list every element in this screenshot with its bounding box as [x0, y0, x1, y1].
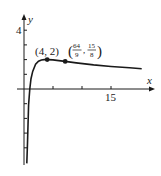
y-axis-label: y — [27, 13, 33, 25]
inflection-point-label: ( 64 9 , 15 8 ) — [68, 42, 102, 60]
maximum-point — [45, 57, 50, 62]
inflection-x-numerator: 64 — [73, 42, 81, 50]
y-tick-label-4: 4 — [16, 24, 22, 36]
maximum-point-label: (4, 2) — [35, 45, 59, 58]
x-axis-label: x — [146, 74, 152, 86]
axes — [17, 14, 155, 165]
function-graph: y x 4 15 (4, 2) ( 64 9 , 15 8 ) — [0, 0, 161, 176]
inflection-point — [63, 59, 68, 64]
inflection-y-denominator: 8 — [90, 51, 94, 59]
svg-text:,: , — [83, 45, 85, 55]
svg-text:): ) — [97, 43, 102, 60]
x-tick-label-15: 15 — [105, 91, 117, 103]
y-axis-arrow-icon — [22, 14, 27, 20]
inflection-x-denominator: 9 — [75, 51, 79, 59]
x-axis-arrow-icon — [149, 87, 155, 92]
inflection-y-numerator: 15 — [88, 42, 96, 50]
function-curve — [27, 60, 142, 164]
